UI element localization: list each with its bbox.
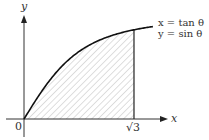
sqrt3-tick-label: √3	[126, 121, 140, 134]
equation-y: y = sin θ	[158, 28, 202, 39]
diagram: y x 0 √3 x = tan θ y = sin θ	[0, 0, 209, 140]
x-axis-label: x	[171, 112, 177, 125]
equation-x: x = tan θ	[158, 17, 204, 28]
x-axis-arrow-icon	[160, 116, 168, 122]
shaded-region	[24, 30, 134, 119]
y-axis-label: y	[21, 0, 27, 13]
origin-label: 0	[15, 120, 22, 133]
y-axis-arrow-icon	[21, 15, 27, 23]
